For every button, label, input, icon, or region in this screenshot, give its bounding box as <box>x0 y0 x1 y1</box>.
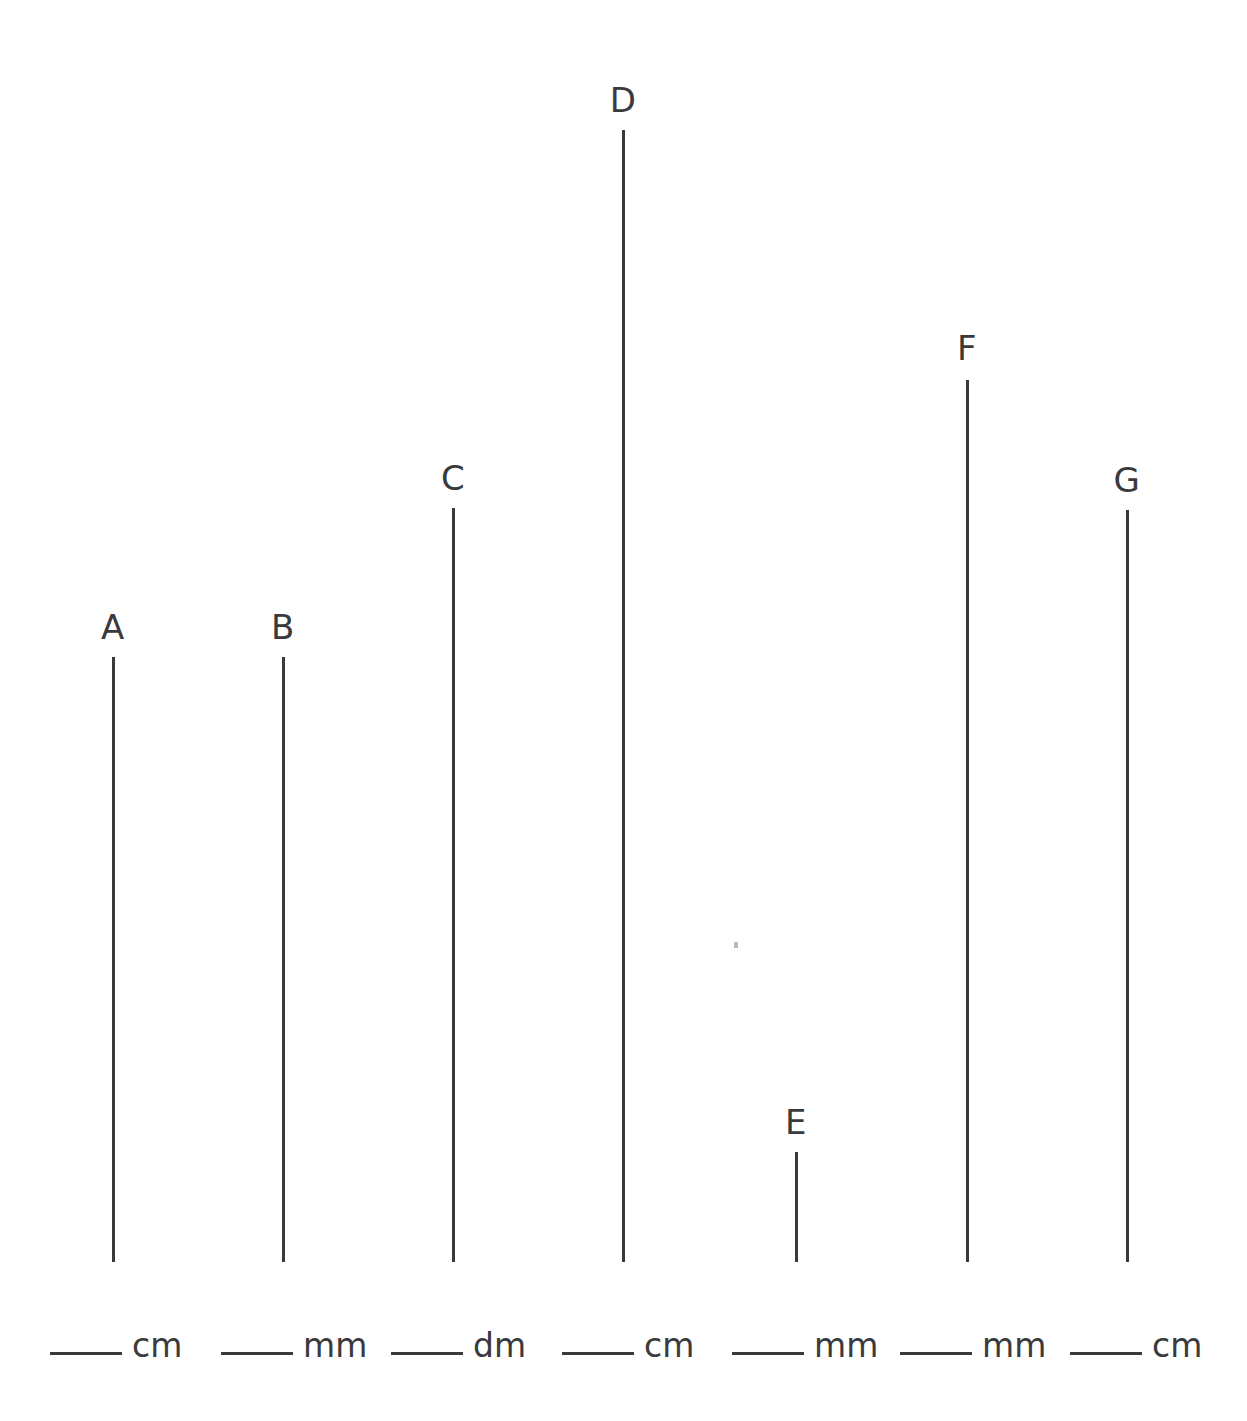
line-segment-c <box>452 508 455 1262</box>
line-segment-group: ABCDEFG <box>0 0 1247 1421</box>
unit-label-g: cm <box>1152 1331 1202 1361</box>
line-segment-a <box>112 657 115 1262</box>
answer-blank-d[interactable] <box>562 1352 634 1355</box>
segment-label-e: E <box>766 1105 826 1139</box>
line-segment-b <box>282 657 285 1262</box>
answer-blank-a[interactable] <box>50 1352 122 1355</box>
answer-item-c: dm <box>391 1331 526 1361</box>
unit-label-f: mm <box>982 1331 1046 1361</box>
segment-label-g: G <box>1097 463 1157 497</box>
segment-label-f: F <box>937 331 997 365</box>
segment-label-b: B <box>253 610 313 644</box>
unit-label-a: cm <box>132 1331 182 1361</box>
line-segment-f <box>966 380 969 1262</box>
line-segment-d <box>622 130 625 1262</box>
unit-label-c: dm <box>473 1331 526 1361</box>
worksheet-page: ABCDEFG cmmmdmcmmmmmcm <box>0 0 1247 1421</box>
answer-item-g: cm <box>1070 1331 1202 1361</box>
answer-item-a: cm <box>50 1331 182 1361</box>
line-segment-g <box>1126 510 1129 1262</box>
answer-item-b: mm <box>221 1331 367 1361</box>
answer-item-f: mm <box>900 1331 1046 1361</box>
segment-label-a: A <box>83 610 143 644</box>
unit-label-d: cm <box>644 1331 694 1361</box>
answer-blank-g[interactable] <box>1070 1352 1142 1355</box>
answer-blank-f[interactable] <box>900 1352 972 1355</box>
unit-label-b: mm <box>303 1331 367 1361</box>
unit-label-e: mm <box>814 1331 878 1361</box>
segment-label-c: C <box>423 461 483 495</box>
segment-label-d: D <box>593 83 653 117</box>
scan-speck <box>734 942 738 948</box>
answer-blank-b[interactable] <box>221 1352 293 1355</box>
line-segment-e <box>795 1152 798 1262</box>
answer-blank-c[interactable] <box>391 1352 463 1355</box>
answer-item-d: cm <box>562 1331 694 1361</box>
answer-blank-e[interactable] <box>732 1352 804 1355</box>
answer-item-e: mm <box>732 1331 878 1361</box>
